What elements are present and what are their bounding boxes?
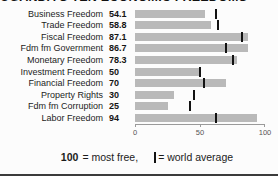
category-label: Business Freedom [0,9,103,19]
bar-track [135,68,265,76]
category-label: Investment Freedom [0,67,103,77]
bar [135,102,168,110]
bar-chart: Business Freedom54.1Trade Freedom58.8Fis… [0,8,278,123]
bar [135,44,248,52]
category-label: Fdm fm Corruption [0,101,103,111]
world-average-tick [217,20,219,30]
chart-title-text: UGANDA'S TEN ECONOMIC FREEDOMS [0,0,278,4]
bar [135,33,248,41]
category-label: Property Rights [0,90,103,100]
economic-freedoms-figure: UGANDA'S TEN ECONOMIC FREEDOMS Business … [0,0,278,176]
value-label: 94 [109,113,133,123]
world-average-tick [203,78,205,88]
legend-most-free-text: = most free, [82,151,138,163]
x-axis-tick-label: 50 [196,128,204,137]
world-average-tick [199,67,201,77]
category-label: Labor Freedom [0,113,103,123]
bar-track [135,44,265,52]
bar-track [135,33,265,41]
value-label: 25 [109,101,133,111]
x-axis-tick-label: 100 [259,128,272,137]
bar [135,21,211,29]
chart-row: Fdm fm Government86.7 [0,43,278,55]
chart-row: Fiscal Freedom87.1 [0,31,278,43]
world-average-tick [232,55,234,65]
bar [135,10,205,18]
value-label: 50 [109,67,133,77]
chart-row: Fdm fm Corruption25 [0,100,278,112]
world-average-tick [215,113,217,123]
bar-track [135,21,265,29]
bar [135,68,200,76]
bar-track [135,56,265,64]
value-label: 78.3 [109,55,133,65]
value-label: 87.1 [109,32,133,42]
value-label: 70 [109,78,133,88]
legend: 100 = most free, = world average [0,151,278,163]
world-average-tick [225,43,227,53]
legend-max-value: 100 [61,151,79,163]
chart-row: Trade Freedom58.8 [0,20,278,32]
chart-row: Financial Freedom70 [0,77,278,89]
world-average-tick [215,9,217,19]
category-label: Trade Freedom [0,20,103,30]
value-label: 86.7 [109,43,133,53]
chart-row: Investment Freedom50 [0,66,278,78]
value-label: 54.1 [109,9,133,19]
bar-track [135,114,265,122]
bar-track [135,10,265,18]
category-label: Fdm fm Government [0,43,103,53]
chart-row: Monetary Freedom78.3 [0,54,278,66]
x-axis-tick [135,124,136,127]
category-label: Monetary Freedom [0,55,103,65]
bar-track [135,79,265,87]
bar-track [135,102,265,110]
value-label: 30 [109,90,133,100]
x-axis-tick-label: 0 [133,128,137,137]
world-average-tick [189,101,191,111]
bottom-divider [0,174,278,176]
value-label: 58.8 [109,20,133,30]
x-axis-tick [264,124,265,127]
bar [135,91,174,99]
chart-row: Labor Freedom94 [0,112,278,124]
chart-row: Property Rights30 [0,89,278,101]
bar-track [135,91,265,99]
world-average-marker-icon [154,152,156,163]
world-average-tick [241,32,243,42]
bar [135,56,237,64]
category-label: Fiscal Freedom [0,32,103,42]
chart-row: Business Freedom54.1 [0,8,278,20]
bar [135,79,226,87]
world-average-tick [193,90,195,100]
category-label: Financial Freedom [0,78,103,88]
x-axis-tick [200,124,201,127]
bar [135,114,257,122]
legend-world-average-text: = world average [158,151,233,163]
x-axis: 050100 [135,124,265,140]
chart-title: UGANDA'S TEN ECONOMIC FREEDOMS [0,0,278,5]
